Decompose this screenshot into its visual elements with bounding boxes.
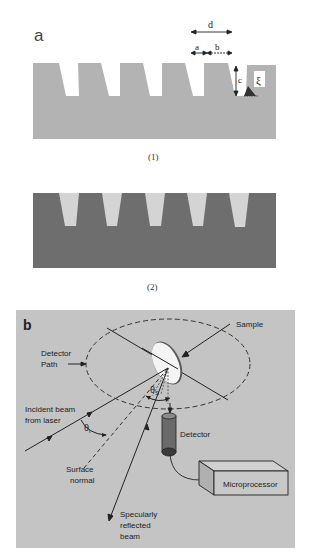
figure-canvas: a d a b c ξ [0,0,309,556]
label-surface-line2: normal [70,476,95,485]
label-incident-line2: from laser [25,416,61,425]
label-b: b [215,42,220,52]
label-a: a [195,42,199,52]
label-specular-line1: Specularly [120,510,157,519]
panel-a-label: a [34,26,44,45]
panel-a: a d a b c ξ [33,19,276,292]
label-surface-line1: Surface [66,465,94,474]
panel-b: b Sample Detector Path Inciden [16,310,295,548]
label-sample: Sample [236,320,264,329]
label-xi: ξ [256,74,261,87]
label-microprocessor: Microprocessor [223,480,278,489]
label-detector-path-line1: Detector [41,349,72,358]
panel-b-label: b [23,317,32,333]
label-detector: Detector [180,430,211,439]
caption-1: (1) [148,152,159,162]
label-specular-line2: reflected [120,521,151,530]
detector-cylinder [162,413,176,456]
label-specular-line3: beam [120,532,140,541]
microprocessor-box [199,461,288,495]
label-detector-path-line2: Path [41,360,57,369]
label-incident-line1: Incident beam [25,405,76,414]
label-d: d [208,19,213,30]
label-c: c [238,75,242,85]
dimension-d [191,30,232,34]
caption-2: (2) [147,282,158,292]
